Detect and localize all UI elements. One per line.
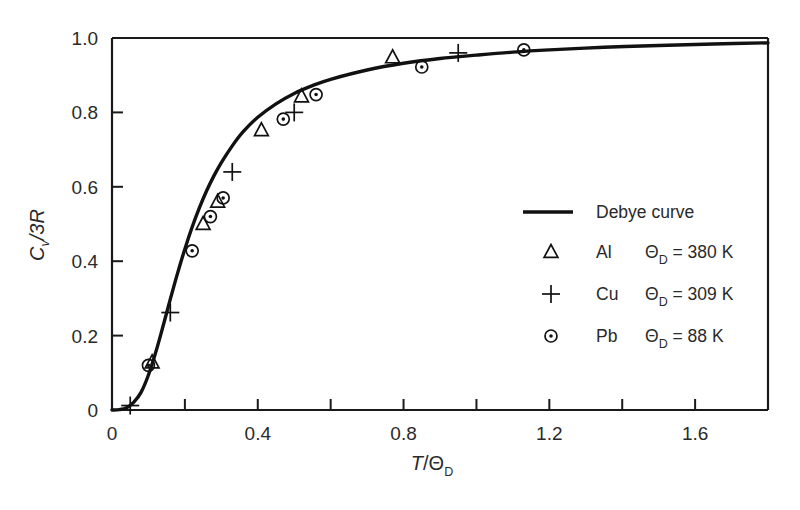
plot-frame [112, 38, 768, 410]
legend-symbol-circle-dot [545, 330, 557, 342]
legend-element-label: Al [596, 242, 612, 262]
debye-heat-capacity-figure: 00.20.40.60.81.0 00.40.81.21.6 Cv/3R T/Θ… [0, 0, 800, 510]
legend-element-label: Pb [596, 326, 617, 346]
marker-circle-center-dot [281, 117, 285, 121]
y-axis-title: Cv/3R [26, 209, 52, 261]
marker-triangle [255, 123, 269, 136]
svg-text:T/ΘD: T/ΘD [411, 452, 453, 479]
legend-row-al: AlΘD = 380 K [544, 242, 734, 267]
marker-circle-center-dot [190, 249, 194, 253]
chart-canvas: 00.20.40.60.81.0 00.40.81.21.6 Cv/3R T/Θ… [0, 0, 800, 510]
y-tick-label: 1.0 [72, 28, 98, 49]
svg-text:Cv/3R: Cv/3R [26, 209, 52, 261]
legend-symbol-plus [542, 285, 560, 303]
marker-circle-center-dot [147, 364, 151, 368]
data-markers-al [145, 50, 399, 368]
y-axis-tick-labels: 00.20.40.60.81.0 [72, 28, 99, 421]
y-axis-ticks [112, 38, 123, 410]
legend-theta-value: ΘD = 309 K [645, 284, 734, 309]
legend-rows: AlΘD = 380 KCuΘD = 309 KPbΘD = 88 K [542, 242, 734, 351]
legend-element-label: Cu [596, 284, 618, 304]
y-tick-label: 0.2 [72, 326, 98, 347]
x-tick-label: 0.4 [245, 423, 272, 444]
x-tick-label: 0 [107, 423, 118, 444]
x-axis-tick-labels: 00.40.81.21.6 [107, 423, 709, 444]
legend-debye-label: Debye curve [596, 202, 694, 222]
marker-triangle [386, 50, 400, 63]
y-axis-title-c: C [26, 246, 48, 261]
legend-symbol-triangle [544, 245, 558, 258]
y-axis-title-denom: /3R [26, 209, 48, 242]
x-axis-title-sub: D [444, 465, 453, 479]
legend: Debye curve AlΘD = 380 KCuΘD = 309 KPbΘD… [523, 202, 734, 351]
marker-circle-center-dot [522, 48, 526, 52]
marker-circle-center-dot [314, 93, 318, 97]
y-tick-label: 0.6 [72, 177, 98, 198]
legend-row-pb: PbΘD = 88 K [545, 326, 724, 351]
data-markers-cu [121, 44, 467, 415]
marker-circle-center-dot [549, 334, 553, 338]
x-axis-ticks [112, 399, 768, 410]
debye-curve-line [112, 43, 768, 410]
legend-row-cu: CuΘD = 309 K [542, 284, 734, 309]
y-tick-label: 0.4 [72, 251, 99, 272]
x-axis-title: T/ΘD [411, 452, 453, 479]
marker-circle-center-dot [221, 196, 225, 200]
y-tick-label: 0.8 [72, 102, 98, 123]
x-tick-label: 1.2 [536, 423, 562, 444]
marker-triangle [544, 245, 558, 258]
x-tick-label: 0.8 [390, 423, 416, 444]
x-tick-label: 1.6 [682, 423, 708, 444]
marker-circle-center-dot [420, 65, 424, 69]
legend-theta-value: ΘD = 380 K [645, 242, 734, 267]
x-axis-title-theta: Θ [429, 452, 445, 474]
legend-theta-value: ΘD = 88 K [645, 326, 724, 351]
marker-circle-center-dot [209, 215, 213, 219]
y-tick-label: 0 [87, 400, 98, 421]
